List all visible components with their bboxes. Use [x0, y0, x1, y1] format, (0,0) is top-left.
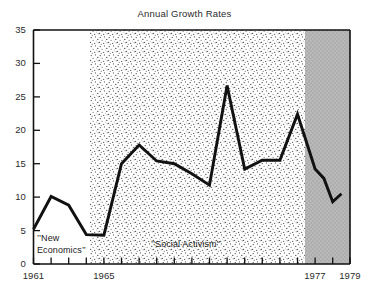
region-post-1977: [305, 30, 350, 264]
y-tick-label-30: 30: [4, 57, 26, 68]
y-tick-label-5: 5: [4, 225, 26, 236]
chart-figure: Annual Growth Rates: [0, 0, 369, 295]
y-tick-label-25: 25: [4, 91, 26, 102]
annotation-new-economics: ’’New Economics’’: [37, 233, 86, 256]
y-tick-label-15: 15: [4, 158, 26, 169]
y-tick-label-20: 20: [4, 124, 26, 135]
region-social-activism: [90, 30, 305, 264]
y-tick-label-35: 35: [4, 24, 26, 35]
x-tick-label-1979: 1979: [330, 270, 369, 281]
annotation-social-activism: ’’Social Activism’’: [151, 239, 221, 251]
x-tick-label-1977: 1977: [295, 270, 335, 281]
x-tick-label-1961: 1961: [14, 270, 54, 281]
y-tick-label-10: 10: [4, 191, 26, 202]
x-tick-label-1965: 1965: [84, 270, 124, 281]
y-tick-label-0: 0: [4, 258, 26, 269]
